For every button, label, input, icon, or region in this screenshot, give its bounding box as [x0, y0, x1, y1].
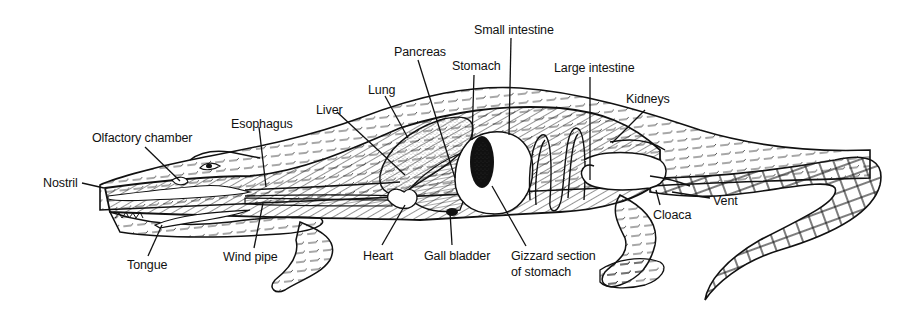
label-gall-bladder: Gall bladder [424, 249, 490, 263]
gall-bladder-shape [446, 208, 458, 216]
label-vent: Vent [713, 194, 738, 208]
label-stomach: Stomach [452, 59, 501, 73]
stomach-shape [455, 132, 533, 214]
label-liver: Liver [316, 103, 343, 117]
label-tongue: Tongue [127, 258, 167, 272]
large-intestine-shape [582, 153, 666, 190]
label-lung: Lung [368, 83, 395, 97]
label-gizzard-line1: Gizzard section [511, 249, 596, 263]
label-pancreas: Pancreas [394, 45, 446, 59]
label-small-intestine: Small intestine [474, 23, 554, 37]
label-heart: Heart [363, 249, 393, 263]
label-large-intestine: Large intestine [554, 61, 635, 75]
label-esophagus: Esophagus [231, 117, 293, 131]
label-kidneys: Kidneys [626, 92, 670, 106]
label-nostril: Nostril [43, 176, 78, 190]
label-gizzard-line2: of stomach [511, 265, 571, 279]
label-wind-pipe: Wind pipe [223, 250, 278, 264]
label-olfactory-chamber: Olfactory chamber [92, 131, 192, 145]
label-cloaca: Cloaca [653, 208, 691, 222]
hind-foot [600, 259, 664, 288]
